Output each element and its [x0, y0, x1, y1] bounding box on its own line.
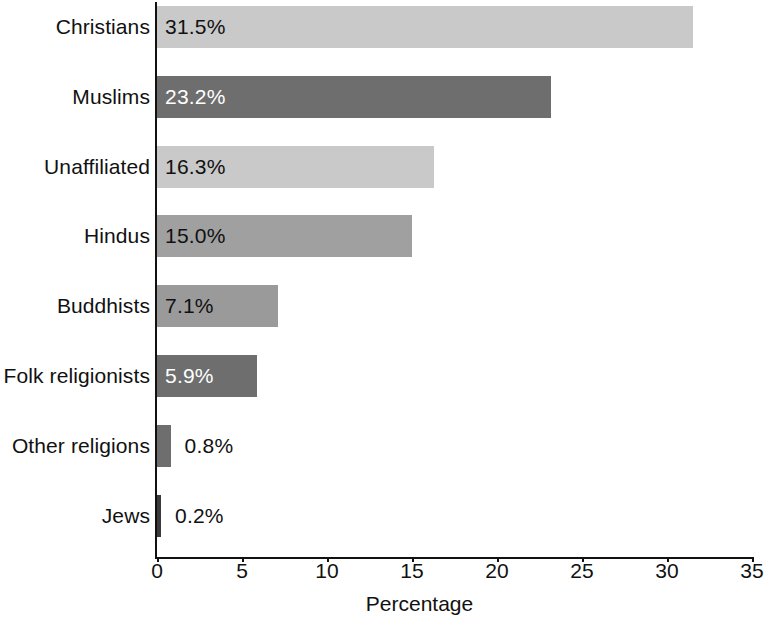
bar	[157, 425, 171, 467]
bar: 7.1%	[157, 285, 278, 327]
x-axis-title-text: Percentage	[366, 592, 473, 615]
bar-value-label: 0.2%	[175, 504, 224, 528]
x-tick-label: 25	[570, 559, 593, 583]
plot-area: 31.5%23.2%16.3%15.0%7.1%5.9%0.8%0.2%	[157, 0, 752, 556]
bar: 16.3%	[157, 146, 434, 188]
bar-value-label: 16.3%	[165, 155, 226, 179]
bar-row: 16.3%	[157, 146, 752, 188]
category-label: Muslims	[0, 85, 150, 109]
x-axis-title: Percentage	[0, 592, 769, 616]
bar-row: 15.0%	[157, 215, 752, 257]
bar-row: 7.1%	[157, 285, 752, 327]
category-label: Hindus	[0, 224, 150, 248]
category-axis-labels: ChristiansMuslimsUnaffiliatedHindusBuddh…	[0, 0, 150, 556]
category-label: Jews	[0, 504, 150, 528]
x-tick-label: 15	[400, 559, 423, 583]
x-tick-label: 0	[151, 559, 163, 583]
x-tick-label: 10	[315, 559, 338, 583]
bar-value-label: 5.9%	[165, 364, 214, 388]
bar-value-label: 0.8%	[185, 434, 234, 458]
bar	[157, 495, 161, 537]
bar-value-label: 23.2%	[165, 85, 226, 109]
category-label: Folk religionists	[0, 364, 150, 388]
x-tick-label: 30	[655, 559, 678, 583]
x-tick-label: 5	[236, 559, 248, 583]
category-label: Unaffiliated	[0, 155, 150, 179]
bar-row: 31.5%	[157, 6, 752, 48]
bar-value-label: 31.5%	[165, 15, 226, 39]
x-tick-label: 20	[485, 559, 508, 583]
category-label: Christians	[0, 15, 150, 39]
bar-value-label: 7.1%	[165, 294, 214, 318]
category-label: Buddhists	[0, 294, 150, 318]
bar-chart: ChristiansMuslimsUnaffiliatedHindusBuddh…	[0, 0, 769, 628]
bar-row: 23.2%	[157, 76, 752, 118]
bar-row: 0.2%	[157, 495, 752, 537]
bar: 23.2%	[157, 76, 551, 118]
bar-value-label: 15.0%	[165, 224, 226, 248]
x-tick-label: 35	[740, 559, 763, 583]
bar: 15.0%	[157, 215, 412, 257]
bar: 31.5%	[157, 6, 693, 48]
bar: 5.9%	[157, 355, 257, 397]
category-label: Other religions	[0, 434, 150, 458]
bar-row: 5.9%	[157, 355, 752, 397]
bar-row: 0.8%	[157, 425, 752, 467]
